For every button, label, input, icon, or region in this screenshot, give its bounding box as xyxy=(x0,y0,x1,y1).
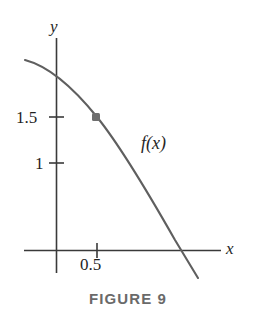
y-tick-label-1: 1 xyxy=(35,155,44,172)
x-axis-label: x xyxy=(226,240,234,257)
x-tick-label-0_5: 0.5 xyxy=(80,256,101,273)
function-curve-label: f(x) xyxy=(141,134,166,152)
y-tick-label-1_5: 1.5 xyxy=(16,109,37,126)
figure-container: y x 1.5 1 0.5 f(x) FIGURE 9 xyxy=(0,0,256,330)
figure-caption: FIGURE 9 xyxy=(0,291,256,306)
function-curve xyxy=(25,60,198,278)
y-axis-label: y xyxy=(50,18,58,35)
marked-point xyxy=(92,113,100,121)
